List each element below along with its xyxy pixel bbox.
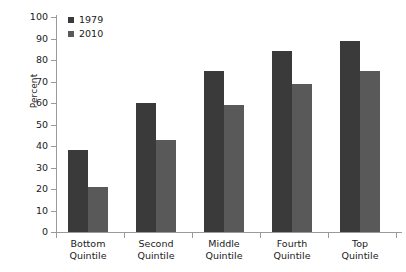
y-axis-tick: [51, 17, 56, 18]
legend-swatch-icon: [68, 31, 74, 37]
bar-2010-3: [292, 84, 312, 232]
y-axis-tick: [51, 189, 56, 190]
legend-swatch-icon: [68, 17, 74, 23]
x-axis-category-line: Top: [318, 238, 402, 250]
y-axis-tick: [51, 211, 56, 212]
y-axis-tick-label: 70: [18, 77, 48, 87]
bar-2010-2: [224, 105, 244, 232]
bar-1979-0: [68, 150, 88, 232]
x-axis-category-label: TopQuintile: [318, 238, 402, 261]
bar-1979-1: [136, 103, 156, 232]
y-axis-tick-label: 90: [18, 34, 48, 44]
y-axis-tick: [51, 60, 56, 61]
y-axis-tick-label: 100: [18, 12, 48, 22]
y-axis-tick: [51, 125, 56, 126]
legend: 1979 2010: [68, 14, 103, 42]
y-axis-tick-label: 50: [18, 120, 48, 130]
y-axis-tick-label: 0: [18, 227, 48, 237]
legend-label: 2010: [79, 29, 103, 39]
y-axis-tick-label: 10: [18, 206, 48, 216]
y-axis-title: Percent: [29, 61, 39, 121]
y-axis-tick: [51, 103, 56, 104]
legend-item: 2010: [68, 28, 103, 40]
y-axis-line: [56, 15, 57, 233]
bar-1979-2: [204, 71, 224, 232]
bar-2010-4: [360, 71, 380, 232]
bar-chart: Percent 0102030405060708090100 BottomQui…: [0, 0, 406, 272]
y-axis-tick-label: 20: [18, 184, 48, 194]
bar-1979-3: [272, 51, 292, 232]
y-axis-tick-label: 80: [18, 55, 48, 65]
legend-item: 1979: [68, 14, 103, 26]
legend-label: 1979: [79, 15, 103, 25]
y-axis-tick: [51, 168, 56, 169]
y-axis-tick-label: 40: [18, 141, 48, 151]
bar-2010-0: [88, 187, 108, 232]
y-axis-tick: [51, 82, 56, 83]
x-axis-line: [56, 232, 402, 233]
y-axis-tick: [51, 39, 56, 40]
y-axis-tick: [51, 146, 56, 147]
y-axis-tick-label: 30: [18, 163, 48, 173]
y-axis-tick-label: 60: [18, 98, 48, 108]
x-axis-category-line: Quintile: [318, 250, 402, 262]
bar-1979-4: [340, 41, 360, 232]
bar-2010-1: [156, 140, 176, 232]
